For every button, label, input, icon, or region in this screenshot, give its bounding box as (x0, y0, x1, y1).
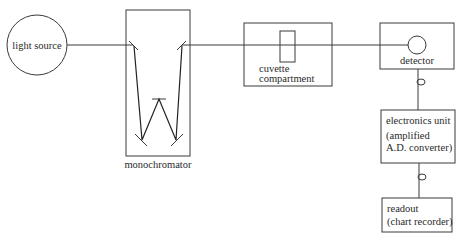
electronics-label-line3: A.D. converter) (386, 142, 453, 154)
cuvette-compartment-node: cuvette compartment (244, 23, 332, 86)
lower-right-mirror-icon (171, 134, 183, 146)
light-source-label: light source (12, 40, 62, 51)
electronics-label-line2: (amplified (386, 130, 430, 142)
readout-node: readout (chart recorder) (382, 198, 453, 232)
spectrophotometer-diagram: light source monochromator cuvette compa… (0, 0, 464, 242)
cuvette-icon (280, 31, 295, 62)
monochromator-light-path (134, 46, 182, 140)
readout-label-line1: readout (387, 203, 419, 214)
detector-sensor-icon (408, 36, 426, 54)
light-source-node: light source (7, 15, 67, 75)
electronics-unit-node: electronics unit (amplified A.D. convert… (381, 110, 455, 163)
readout-label-line2: (chart recorder) (387, 216, 453, 228)
monochromator-label: monochromator (124, 159, 192, 170)
monochromator-node: monochromator (124, 10, 192, 170)
lower-left-mirror-icon (135, 134, 147, 146)
detector-label: detector (400, 55, 434, 66)
electronics-label-line1: electronics unit (386, 115, 451, 126)
detector-node: detector (380, 23, 454, 69)
cuvette-label-line2: compartment (259, 73, 314, 84)
